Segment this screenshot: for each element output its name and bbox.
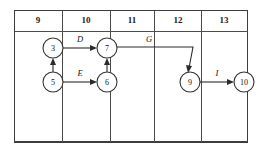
edge-9-to-10 (200, 79, 234, 85)
node-3[interactable]: 3 (43, 38, 63, 58)
column-header-11: 11 (128, 15, 137, 25)
edges-layer (50, 45, 234, 85)
column-header-9: 9 (36, 15, 41, 25)
edge-6-to-7 (104, 58, 110, 72)
node-9[interactable]: 9 (180, 72, 200, 92)
edge-labels-layer: D E G I (76, 34, 220, 78)
edge-label-G: G (146, 34, 152, 44)
edge-label-D: D (76, 34, 84, 44)
edge-label-I: I (215, 68, 220, 78)
edge-6-to-7-arrowhead (104, 58, 110, 65)
node-6-label: 6 (105, 78, 109, 87)
edge-5-to-6 (63, 79, 97, 85)
edge-9-to-10-arrowhead (227, 79, 234, 85)
node-7-label: 7 (105, 44, 109, 53)
edge-5-to-6-arrowhead (90, 79, 97, 85)
node-5-label: 5 (51, 78, 55, 87)
diagram-svg: 9 10 11 12 13 (0, 0, 273, 153)
node-5[interactable]: 5 (43, 72, 63, 92)
edge-3-to-7 (63, 45, 97, 51)
nodes-layer: 3 7 5 6 9 10 (43, 38, 254, 92)
edge-3-to-7-arrowhead (90, 45, 97, 51)
column-header-12: 12 (174, 15, 184, 25)
node-10[interactable]: 10 (234, 72, 254, 92)
edge-5-to-3 (50, 58, 56, 72)
node-9-label: 9 (188, 78, 192, 87)
time-scale-labels: 9 10 11 12 13 (36, 15, 229, 25)
column-header-13: 13 (220, 15, 230, 25)
node-6[interactable]: 6 (97, 72, 117, 92)
network-diagram-canvas: 9 10 11 12 13 (0, 0, 273, 153)
column-header-10: 10 (82, 15, 92, 25)
node-10-label: 10 (240, 78, 248, 87)
node-3-label: 3 (51, 44, 55, 53)
edge-label-E: E (76, 68, 83, 78)
node-7[interactable]: 7 (97, 38, 117, 58)
edge-5-to-3-arrowhead (50, 58, 56, 65)
